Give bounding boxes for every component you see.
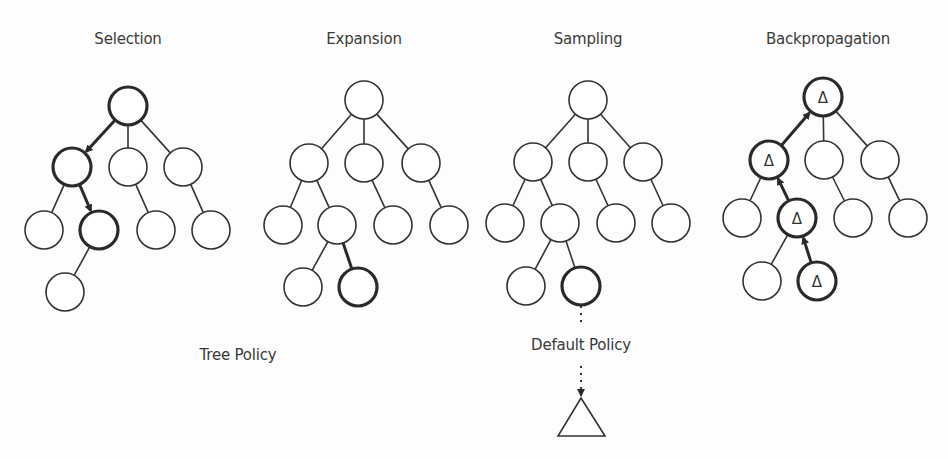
default-policy-rollout [558,306,605,436]
tree-edge [513,179,525,205]
tree-edge [372,180,385,208]
tree-node [402,144,440,182]
tree-node [514,143,552,181]
tree-node [743,262,781,300]
tree-edge [541,179,553,205]
tree-node [345,81,383,119]
tree-edges [52,111,900,275]
tree-node [109,87,147,125]
tree-node [264,206,302,244]
tree-policy-label: Tree Policy [200,346,277,364]
tree-edge [750,177,761,201]
tree-node [652,204,690,242]
tree-node [723,199,761,237]
tree-edge [771,235,788,265]
phase-title-selection: Selection [94,30,161,48]
tree-node [290,144,328,182]
tree-node [339,268,377,306]
tree-edge [377,114,409,149]
tree-node [624,143,662,181]
delta-icon: Δ [818,89,829,107]
delta-icon: Δ [812,273,823,291]
tree-edge [832,177,844,201]
tree-node [192,211,230,249]
tree-node [805,141,843,179]
tree-node [597,204,635,242]
tree-node [562,267,600,305]
arrow-edge [778,179,789,201]
tree-edge [52,184,65,212]
delta-icon: Δ [764,152,775,170]
default-policy-label: Default Policy [531,336,631,354]
tree-node [541,204,579,242]
tree-node [46,273,84,311]
tree-edge [136,184,149,212]
arrow-edge [86,120,115,152]
tree-node [374,206,412,244]
tree-edge [651,179,663,205]
phase-title-expansion: Expansion [326,30,401,48]
tree-edge [836,111,868,146]
tree-node [53,148,91,186]
tree-edge [546,114,576,148]
tree-edge [429,180,441,207]
arrow-edge [79,184,90,210]
mcts-diagram: ΔΔΔΔ [0,0,948,459]
tree-edge [74,247,90,276]
tree-node [430,206,468,244]
tree-node [507,267,545,305]
tree-edge [290,181,301,208]
tree-node [80,211,118,249]
delta-node: Δ [804,78,842,116]
tree-node [25,211,63,249]
arrow-edge [803,238,811,263]
tree-node [569,143,607,181]
tree-node [284,268,322,306]
tree-edge [191,184,204,212]
delta-icon: Δ [792,210,803,228]
tree-edge [317,180,329,207]
tree-edge [321,114,351,148]
tree-edge [343,243,352,269]
tree-edge [596,179,608,205]
tree-node [318,206,356,244]
tree-edge [888,177,899,201]
delta-node: Δ [778,199,816,237]
tree-node [345,144,383,182]
tree-node [486,204,524,242]
tree-nodes: ΔΔΔΔ [25,78,927,311]
tree-edge [141,120,171,153]
tree-edge [601,114,631,148]
tree-node [137,211,175,249]
tree-node [164,148,202,186]
tree-node [889,199,927,237]
phase-title-sampling: Sampling [554,30,623,48]
tree-edge [535,240,551,270]
tree-node [861,141,899,179]
tree-node [834,199,872,237]
delta-node: Δ [798,262,836,300]
tree-edge [312,242,328,271]
tree-edge [566,241,575,268]
delta-node: Δ [750,141,788,179]
phase-title-backpropagation: Backpropagation [766,30,890,48]
tree-node [109,148,147,186]
tree-node [569,81,607,119]
arrow-edge [781,113,809,146]
terminal-triangle-icon [558,398,605,436]
